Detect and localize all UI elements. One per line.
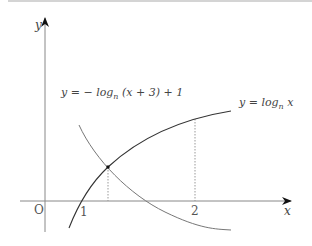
x-axis-label: x bbox=[284, 204, 291, 218]
log-graph-figure: y x O 1 2 y = − logn (x + 3) + 1 y = log… bbox=[0, 0, 312, 246]
intersection-point bbox=[107, 166, 110, 169]
log-curve bbox=[69, 111, 231, 228]
x-tick-2: 2 bbox=[191, 204, 199, 218]
x-tick-1: 1 bbox=[80, 205, 88, 219]
origin-label: O bbox=[34, 203, 44, 217]
reflected-log-curve bbox=[79, 125, 231, 230]
y-axis-label: y bbox=[34, 18, 42, 32]
log-curve-label: y = logn x bbox=[238, 96, 294, 111]
reflected-log-curve-label: y = − logn (x + 3) + 1 bbox=[60, 86, 183, 101]
